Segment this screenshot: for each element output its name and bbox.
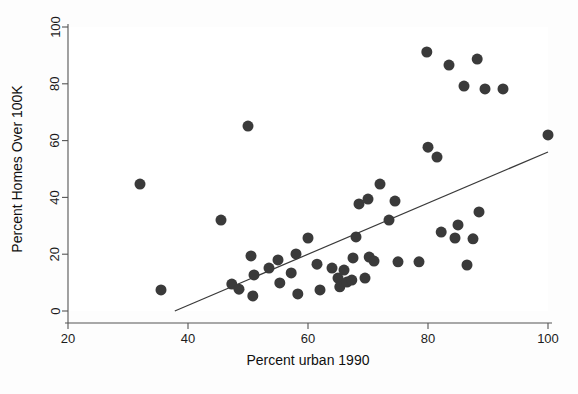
data-point [312, 259, 323, 270]
data-point [346, 275, 357, 286]
data-point [468, 233, 479, 244]
data-point [273, 254, 284, 265]
x-tick-label: 20 [61, 331, 75, 346]
data-point [249, 269, 260, 280]
y-tick-label: 0 [48, 307, 63, 314]
x-tick-label: 80 [421, 331, 435, 346]
x-tick-label: 100 [537, 331, 559, 346]
plot-area-background [68, 27, 548, 311]
y-tick-label: 60 [48, 133, 63, 147]
data-point [436, 227, 447, 238]
data-point [247, 290, 258, 301]
data-point [421, 46, 432, 57]
data-point [363, 194, 374, 205]
data-point [453, 219, 464, 230]
data-point [234, 284, 245, 295]
data-point [360, 273, 371, 284]
data-point [246, 250, 257, 261]
x-tick-label: 40 [181, 331, 195, 346]
data-point [369, 256, 380, 267]
data-point [444, 60, 455, 71]
data-point [423, 142, 434, 153]
data-point [393, 256, 404, 267]
data-point [375, 179, 386, 190]
y-axis-title: Percent Homes Over 100K [9, 85, 25, 253]
data-point [390, 196, 401, 207]
data-point [339, 265, 350, 276]
data-point [474, 206, 485, 217]
plot-canvas: 020406080100 20406080100 Percent urban 1… [0, 0, 578, 394]
data-point [472, 54, 483, 65]
data-point [432, 152, 443, 163]
x-axis-title: Percent urban 1990 [247, 352, 370, 368]
data-point [414, 256, 425, 267]
data-point [315, 284, 326, 295]
data-point [135, 179, 146, 190]
y-tick-label: 40 [48, 190, 63, 204]
scatter-plot-figure: 020406080100 20406080100 Percent urban 1… [0, 0, 578, 394]
data-point [459, 81, 470, 92]
data-point [286, 267, 297, 278]
data-point [498, 83, 509, 94]
data-point [264, 263, 275, 274]
data-point [543, 129, 554, 140]
data-point [351, 231, 362, 242]
y-tick-label: 100 [48, 16, 63, 38]
data-point [291, 248, 302, 259]
y-tick-label: 20 [48, 247, 63, 261]
data-point [384, 215, 395, 226]
data-point [156, 284, 167, 295]
data-point [292, 288, 303, 299]
data-point [303, 233, 314, 244]
data-point [462, 259, 473, 270]
data-point [274, 277, 285, 288]
data-point [216, 215, 227, 226]
data-point [480, 83, 491, 94]
data-point [243, 121, 254, 132]
data-point [327, 263, 338, 274]
y-tick-label: 80 [48, 77, 63, 91]
data-point [348, 252, 359, 263]
data-point [450, 233, 461, 244]
x-tick-label: 60 [301, 331, 315, 346]
